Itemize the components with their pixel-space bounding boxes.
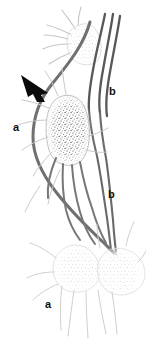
- lymph-node-middle: [46, 93, 92, 167]
- figure-artwork: [0, 0, 146, 342]
- label-a-lower: a: [45, 299, 51, 310]
- label-b-upper: b: [109, 86, 116, 97]
- label-b-lower: b: [108, 189, 115, 200]
- anatomical-figure: a b b a: [0, 0, 146, 342]
- label-a-upper: a: [13, 122, 19, 133]
